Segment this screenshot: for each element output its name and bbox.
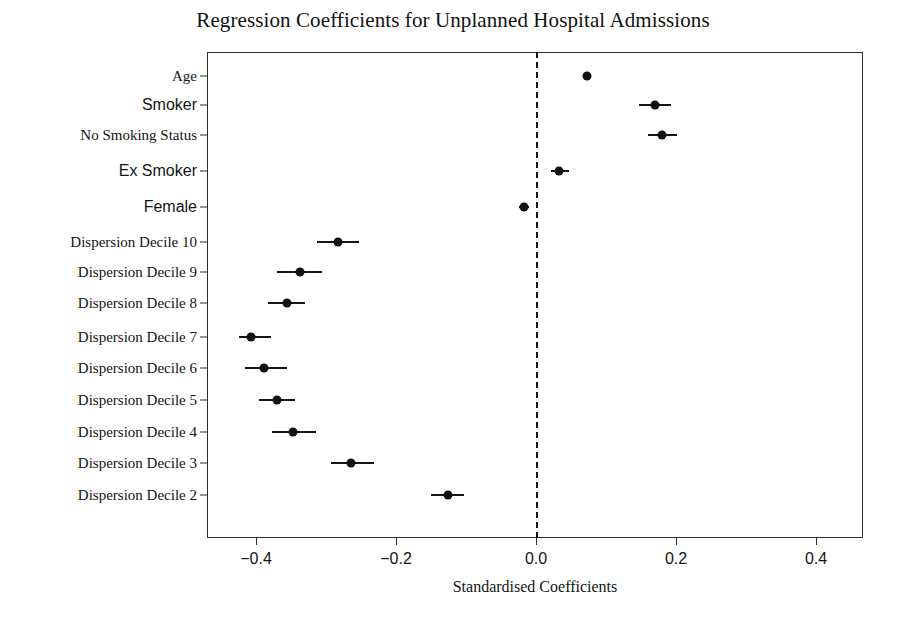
- coefficient-point: [333, 238, 342, 247]
- coefficient-point: [651, 101, 660, 110]
- chart-title: Regression Coefficients for Unplanned Ho…: [0, 8, 906, 33]
- y-tick-label: No Smoking Status: [0, 128, 197, 143]
- x-tick-mark: [396, 538, 397, 545]
- coefficient-point: [247, 333, 256, 342]
- y-tick-mark: [200, 400, 207, 401]
- zero-reference-line: [536, 52, 538, 538]
- y-tick-label: Dispersion Decile 7: [0, 330, 197, 345]
- coefficient-point: [583, 72, 592, 81]
- x-tick-mark: [536, 538, 537, 545]
- y-tick-mark: [200, 303, 207, 304]
- y-tick-mark: [200, 463, 207, 464]
- x-tick-label: −0.2: [380, 550, 412, 568]
- x-axis-title: Standardised Coefficients: [207, 578, 863, 596]
- y-tick-label: Dispersion Decile 10: [0, 235, 197, 250]
- coefficient-point: [347, 459, 356, 468]
- y-tick-mark: [200, 135, 207, 136]
- regression-coefficient-plot: Regression Coefficients for Unplanned Ho…: [0, 0, 906, 632]
- y-tick-mark: [200, 171, 207, 172]
- coefficient-point: [259, 364, 268, 373]
- y-tick-mark: [200, 368, 207, 369]
- x-tick-mark: [816, 538, 817, 545]
- y-tick-label: Female: [0, 199, 197, 215]
- y-tick-label: Dispersion Decile 2: [0, 488, 197, 503]
- coefficient-point: [289, 428, 298, 437]
- y-tick-label: Dispersion Decile 4: [0, 425, 197, 440]
- y-tick-mark: [200, 337, 207, 338]
- coefficient-point: [555, 167, 564, 176]
- coefficient-point: [443, 491, 452, 500]
- y-tick-mark: [200, 432, 207, 433]
- y-tick-label: Ex Smoker: [0, 163, 197, 179]
- coefficient-point: [658, 131, 667, 140]
- y-tick-label: Smoker: [0, 97, 197, 113]
- y-tick-label: Age: [0, 69, 197, 84]
- x-tick-mark: [676, 538, 677, 545]
- plot-area: [207, 52, 863, 538]
- y-tick-mark: [200, 495, 207, 496]
- y-tick-mark: [200, 105, 207, 106]
- y-tick-mark: [200, 207, 207, 208]
- y-tick-label: Dispersion Decile 9: [0, 265, 197, 280]
- y-tick-label: Dispersion Decile 3: [0, 456, 197, 471]
- coefficient-point: [520, 203, 529, 212]
- coefficient-point: [296, 268, 305, 277]
- coefficient-point: [282, 299, 291, 308]
- x-tick-label: 0.0: [525, 550, 547, 568]
- x-tick-label: 0.2: [665, 550, 687, 568]
- y-tick-label: Dispersion Decile 8: [0, 296, 197, 311]
- y-tick-label: Dispersion Decile 6: [0, 361, 197, 376]
- y-tick-mark: [200, 272, 207, 273]
- x-tick-label: 0.4: [805, 550, 827, 568]
- y-tick-label: Dispersion Decile 5: [0, 393, 197, 408]
- x-tick-label: −0.4: [240, 550, 272, 568]
- y-tick-mark: [200, 76, 207, 77]
- coefficient-point: [273, 396, 282, 405]
- x-tick-mark: [256, 538, 257, 545]
- y-tick-mark: [200, 242, 207, 243]
